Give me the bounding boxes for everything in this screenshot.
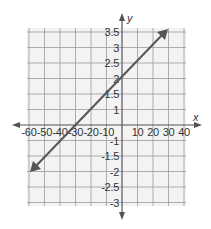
x-tick-label: -60	[22, 126, 37, 138]
x-tick-label: 20	[147, 126, 159, 138]
y-tick-label: -2.5	[101, 181, 119, 193]
y-tick-label: -1	[110, 135, 119, 147]
y-tick-label: 3.5	[105, 26, 120, 38]
y-axis-title: y	[126, 12, 134, 24]
x-tick-labels: -60-50-40-30-20-1010203040	[22, 126, 190, 138]
y-tick-label: 1	[113, 104, 119, 116]
y-tick-label: -1.5	[101, 150, 119, 162]
x-tick-label: 40	[178, 126, 190, 138]
y-tick-label: -2	[110, 166, 119, 178]
x-tick-label: 10	[132, 126, 144, 138]
y-tick-label: 1.5	[105, 88, 120, 100]
x-axis-left-arrow-icon	[12, 122, 20, 128]
x-tick-label: -20	[84, 126, 99, 138]
x-tick-label: 30	[163, 126, 175, 138]
x-axis-title: x	[192, 111, 199, 123]
y-axis-top-arrow-icon	[119, 13, 125, 21]
x-tick-label: -50	[37, 126, 52, 138]
y-tick-label: 2.5	[105, 57, 120, 69]
y-tick-label: 3	[113, 42, 119, 54]
x-tick-label: -30	[68, 126, 83, 138]
y-axis-bottom-arrow-icon	[119, 212, 125, 220]
y-tick-label: -3	[110, 197, 119, 209]
coordinate-plane: x y -60-50-40-30-20-1010203040 3.532.521…	[0, 0, 211, 229]
